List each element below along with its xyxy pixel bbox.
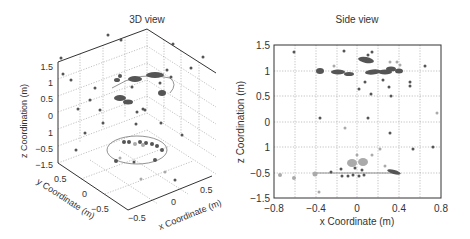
grid-side xyxy=(274,45,441,198)
chart-side-view: Side view xyxy=(235,14,448,227)
svg-text:0: 0 xyxy=(264,117,270,128)
svg-text:1.5: 1.5 xyxy=(256,40,270,51)
svg-text:−0.8: −0.8 xyxy=(264,203,284,214)
figure: 3D view xyxy=(0,0,470,239)
svg-text:0.5: 0.5 xyxy=(200,185,213,195)
svg-text:1: 1 xyxy=(264,142,270,153)
svg-text:0.5: 0.5 xyxy=(256,91,270,102)
svg-text:0.5: 0.5 xyxy=(54,174,67,184)
svg-text:1: 1 xyxy=(48,128,53,138)
title-3d: 3D view xyxy=(129,14,165,25)
grid-3d xyxy=(58,29,216,204)
x-axis-label-side: x Coordinate (m) xyxy=(320,216,394,227)
svg-text:0: 0 xyxy=(82,189,87,199)
svg-text:−0.5: −0.5 xyxy=(128,213,146,223)
svg-text:0: 0 xyxy=(48,111,53,121)
svg-text:1: 1 xyxy=(264,66,270,77)
svg-text:1: 1 xyxy=(48,78,53,88)
svg-text:1.5: 1.5 xyxy=(40,62,53,72)
svg-text:−1.5: −1.5 xyxy=(35,160,53,170)
x-ticks-side: −0.8 −0.4 0 0.4 0.8 xyxy=(264,203,448,214)
z-axis-label-3d: z Coordination (m) xyxy=(19,84,29,158)
axes-box-side xyxy=(274,45,441,198)
chart-3d-view: 3D view xyxy=(19,14,223,232)
points-3d-light xyxy=(119,142,167,181)
axes-box-3d xyxy=(58,29,216,210)
z-ticks-3d: 1.5 1 0.5 0 1 −0.5 −1.5 xyxy=(35,62,53,170)
points-side-light xyxy=(278,61,439,194)
svg-text:−0.4: −0.4 xyxy=(306,203,326,214)
points-3d xyxy=(60,34,205,182)
svg-text:0.5: 0.5 xyxy=(40,94,53,104)
z-ticks-side: 1.5 1 0.5 0 1 −0.5 −1.5 xyxy=(250,40,270,204)
svg-text:0.8: 0.8 xyxy=(434,203,448,214)
x-axis-label-3d: x Coordinate (m) xyxy=(157,197,223,231)
z-axis-label-side: z Coordination (m) xyxy=(235,81,246,163)
svg-text:0: 0 xyxy=(354,203,360,214)
svg-text:−0.5: −0.5 xyxy=(250,168,270,179)
svg-text:0.4: 0.4 xyxy=(392,203,406,214)
svg-text:−0.5: −0.5 xyxy=(35,144,53,154)
svg-text:0: 0 xyxy=(171,197,176,207)
title-side: Side view xyxy=(336,14,380,25)
